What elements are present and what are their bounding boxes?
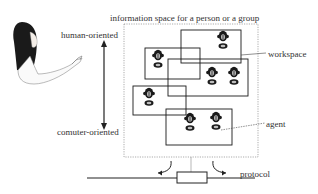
diagram-canvas: [0, 0, 318, 194]
agent-icon: [217, 31, 229, 49]
workspace-callout-line: [241, 53, 266, 55]
protocol-connector-icon: [177, 172, 207, 183]
agent-icon: [184, 113, 196, 131]
agent-callout-line: [221, 123, 265, 130]
agent-icon: [210, 112, 222, 130]
workspace-box-c: [168, 59, 248, 96]
curved-arrow-right-icon: [213, 161, 226, 173]
information-space-boundary: [124, 24, 258, 157]
workspace-box-d: [133, 86, 186, 115]
agent-icon: [228, 67, 240, 85]
agent-icons: [143, 31, 240, 131]
human-oriented-label: human-oriented: [61, 30, 118, 40]
workspace-label: workspace: [268, 49, 306, 59]
diagram-title: information space for a person or a grou…: [110, 13, 259, 23]
workspace-box-b: [145, 48, 200, 79]
curved-arrow-left-icon: [158, 161, 171, 173]
agent-icon: [206, 67, 218, 85]
agent-icon: [152, 50, 164, 68]
computer-oriented-label: comuter-oriented: [57, 127, 119, 137]
agent-label: agent: [266, 119, 286, 129]
workspace-box-a: [181, 30, 241, 63]
workspace-box-e: [166, 109, 232, 145]
agent-icon: [143, 88, 155, 106]
protocol-label: protocol: [240, 169, 270, 179]
arrow-up-icon: [101, 40, 107, 47]
